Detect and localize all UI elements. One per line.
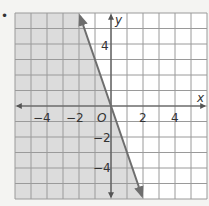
x-tick-neg4: −4	[33, 111, 51, 125]
x-tick-4: 4	[171, 111, 179, 125]
coordinate-plane: • x y −4 −2 O 2 4 4 −2 −4	[0, 0, 209, 206]
y-axis-label: y	[114, 13, 123, 27]
x-axis-label: x	[196, 91, 205, 105]
bullet: •	[1, 9, 8, 23]
y-tick-neg4: −4	[93, 161, 111, 175]
origin-label: O	[97, 111, 106, 125]
x-tick-neg2: −2	[66, 111, 84, 125]
x-tick-2: 2	[139, 111, 147, 125]
y-tick-4: 4	[101, 39, 109, 53]
y-tick-neg2: −2	[93, 131, 111, 145]
